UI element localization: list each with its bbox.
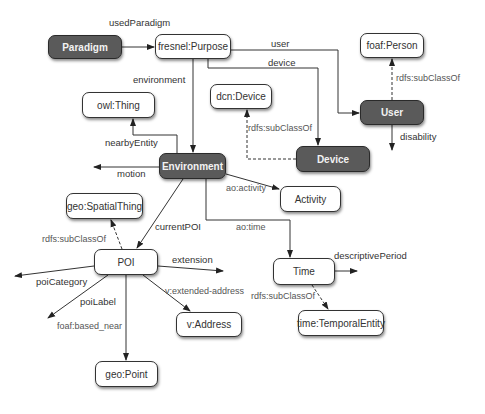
label-dcn-subclassof: rdfs:subClassOf bbox=[248, 123, 312, 133]
node-owl-thing: owl:Thing bbox=[82, 92, 155, 118]
label-descriptivePeriod: descriptivePeriod bbox=[334, 250, 407, 261]
node-label: time:TemporalEntity bbox=[297, 318, 385, 329]
label-aotime: ao:time bbox=[236, 222, 266, 232]
label-poiCategory: poiCategory bbox=[36, 276, 87, 287]
node-geo-point: geo:Point bbox=[95, 361, 158, 387]
label-user: user bbox=[271, 38, 289, 49]
label-extension: extension bbox=[172, 254, 213, 265]
label-spatial-subclassof: rdfs:subClassOf bbox=[42, 234, 106, 244]
node-label: v:Address bbox=[187, 319, 231, 330]
node-v-address: v:Address bbox=[176, 312, 242, 337]
label-usedParadigm: usedParadigm bbox=[109, 17, 170, 28]
label-device: device bbox=[268, 57, 295, 68]
ontology-diagram: Paradigm fresnel:Purpose foaf:Person owl… bbox=[0, 0, 485, 414]
node-time-temporalentity: time:TemporalEntity bbox=[298, 310, 384, 336]
node-label: geo:Point bbox=[105, 369, 147, 380]
node-activity: Activity bbox=[280, 186, 341, 212]
node-label: geo:SpatialThing bbox=[67, 201, 142, 212]
edge-extension bbox=[158, 266, 223, 271]
node-label: dcn:Device bbox=[216, 91, 265, 102]
node-geo-spatialthing: geo:SpatialThing bbox=[66, 193, 143, 219]
label-environment: environment bbox=[133, 74, 185, 85]
node-label: Environment bbox=[162, 161, 223, 172]
label-motion: motion bbox=[117, 168, 146, 179]
node-environment: Environment bbox=[159, 153, 226, 179]
label-time-subclassof: rdfs:subClassOf bbox=[251, 291, 315, 301]
node-label: Time bbox=[293, 266, 315, 277]
edge-device-subclass bbox=[247, 110, 296, 159]
node-time: Time bbox=[273, 258, 335, 285]
label-currentPOI: currentPOI bbox=[155, 221, 201, 232]
node-foaf-person: foaf:Person bbox=[360, 33, 424, 58]
label-aoactivity: ao:activity bbox=[226, 183, 266, 193]
node-fresnel-purpose: fresnel:Purpose bbox=[155, 34, 231, 59]
node-paradigm: Paradigm bbox=[48, 35, 122, 59]
node-device: Device bbox=[296, 146, 370, 172]
edge-currentPOI bbox=[137, 179, 183, 248]
node-label: fresnel:Purpose bbox=[158, 41, 228, 52]
edge-poiCategory bbox=[15, 266, 94, 276]
node-user: User bbox=[360, 100, 424, 125]
label-nearbyEntity: nearbyEntity bbox=[105, 137, 158, 148]
node-dcn-device: dcn:Device bbox=[210, 84, 272, 109]
label-poiLabel: poiLabel bbox=[80, 296, 116, 307]
node-label: Device bbox=[317, 154, 349, 165]
node-label: User bbox=[381, 107, 403, 118]
node-label: POI bbox=[117, 257, 134, 268]
node-label: foaf:Person bbox=[366, 40, 417, 51]
node-poi: POI bbox=[94, 249, 158, 275]
label-person-subclassof: rdfs:subClassOf bbox=[396, 73, 460, 83]
node-label: Activity bbox=[295, 194, 327, 205]
label-based-near: foaf:based_near bbox=[57, 321, 122, 331]
label-extended-address: v:extended-address bbox=[165, 286, 244, 296]
node-label: Paradigm bbox=[62, 42, 108, 53]
label-disability: disability bbox=[400, 131, 436, 142]
node-label: owl:Thing bbox=[97, 100, 140, 111]
edge-poi-subclass bbox=[111, 220, 122, 249]
